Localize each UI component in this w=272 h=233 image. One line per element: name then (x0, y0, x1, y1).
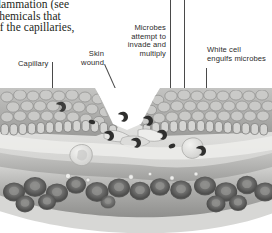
body-text-line-1: flammation (see (0, 0, 122, 11)
white-blood-cell (70, 145, 92, 166)
label-microbes: Microbes attempt to invade and multiply (108, 24, 166, 58)
red-blood-cell (24, 177, 47, 197)
skin-wound-illustration (0, 88, 272, 233)
red-blood-cell (194, 177, 216, 196)
red-blood-cell (101, 195, 116, 208)
body-text-line-3: of the capillaries, (0, 22, 122, 34)
red-blood-cell (66, 176, 86, 194)
label-skin-wound: Skin wound (58, 50, 104, 67)
illustration-svg (0, 88, 272, 233)
label-white-cell: White cell engulfs microbes (207, 46, 272, 63)
label-skin-wound-line-2: wound (58, 59, 104, 68)
label-white-cell-line-2: engulfs microbes (207, 55, 272, 64)
red-blood-cell (108, 179, 130, 198)
red-blood-cell (207, 196, 226, 213)
label-microbes-line-4: multiply (108, 50, 166, 59)
red-blood-cell (130, 182, 151, 200)
body-text: flammation (see chemicals that of the ca… (0, 0, 122, 34)
red-blood-cell (150, 178, 170, 196)
figure-root: flammation (see chemicals that of the ca… (0, 0, 272, 233)
red-blood-cell (16, 196, 35, 213)
red-blood-cell (229, 195, 247, 211)
red-blood-cell (170, 181, 192, 200)
red-blood-cell (38, 194, 56, 210)
